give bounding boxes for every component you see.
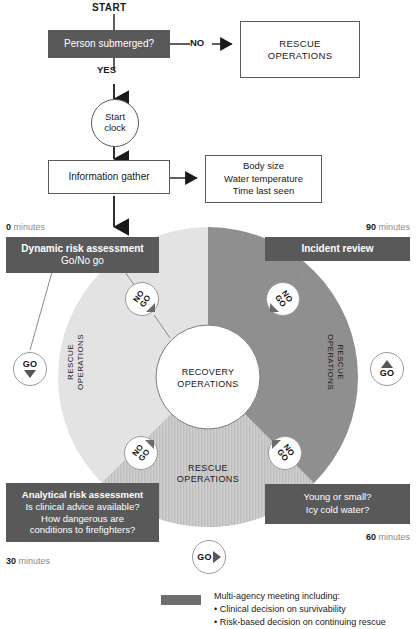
triangle-down-icon [24,370,36,378]
triangle-up-right-icon [145,440,154,449]
node-analytical-line1: Is clinical advice available? [25,501,139,513]
node-dynamic-risk-assessment-sub: Go/No go [61,255,104,267]
badge-go-bottom[interactable]: GO [192,540,226,574]
triangle-up-icon [381,360,393,368]
timeline-0-minutes: 0 minutes [6,222,45,232]
node-info-details-label: Body size Water temperature Time last se… [224,160,303,198]
badge-go-right-text: GO [380,369,394,378]
timeline-60-minutes: 60 minutes [366,532,410,542]
triangle-up-left-icon [272,440,281,449]
node-dynamic-risk-assessment-title: Dynamic risk assessment [21,243,143,255]
node-incident-review-label: Incident review [301,243,373,255]
badge-no-go-top-left[interactable]: NO GO [125,282,159,316]
edge-label-no: NO [190,37,204,48]
node-information-gather-label: Information gather [68,171,149,183]
legend-heading: Multi-agency meeting including: [214,590,340,603]
badge-no-go-bottom-left[interactable]: NO GO [124,436,158,470]
timeline-90-minutes: 90 minutes [366,222,410,232]
node-start-clock[interactable]: Start clock [91,99,139,147]
node-dynamic-risk-assessment[interactable]: Dynamic risk assessment Go/No go [6,237,159,273]
timeline-90-value: 90 [366,222,376,232]
node-young-or-small[interactable]: Young or small? Icy cold water? [265,484,410,524]
timeline-90-unit: minutes [378,222,410,232]
badge-no-go-top-right[interactable]: NO GO [266,282,300,316]
start-label: START [92,2,127,13]
node-analytical-risk-assessment-title: Analytical risk assessment [22,489,143,501]
node-young-or-small-line2: Icy cold water? [306,504,369,517]
timeline-60-unit: minutes [378,532,410,542]
arc-label-rescue-operations-right: RESCUE OPERATIONS [325,332,345,392]
badge-go-left[interactable]: GO [13,352,47,386]
node-rescue-operations-top-label: RESCUE OPERATIONS [268,38,333,60]
timeline-30-minutes: 30 minutes [6,556,50,566]
badge-go-right[interactable]: GO [370,352,404,386]
node-person-submerged[interactable]: Person submerged? [48,30,170,58]
line-dra-to-go-left [30,272,52,350]
legend-bullet-1: • Clinical decision on survivability [214,603,346,616]
legend-bullet-2: • Risk-based decision on continuing resc… [214,616,386,629]
badge-go-bottom-text: GO [197,553,211,562]
edge-label-yes: YES [97,64,116,75]
recovery-operations-label: RECOVERY OPERATIONS [160,367,256,390]
timeline-60-value: 60 [366,532,376,542]
node-analytical-line2: How dangerous are [41,513,124,525]
arc-label-rescue-operations-left: RESCUE OPERATIONS [66,332,86,392]
node-information-gather[interactable]: Information gather [48,160,170,194]
timeline-30-unit: minutes [19,556,51,566]
timeline-30-value: 30 [6,556,16,566]
legend-swatch [161,595,201,605]
node-person-submerged-label: Person submerged? [64,38,154,50]
node-rescue-operations-top[interactable]: RESCUE OPERATIONS [240,21,360,78]
triangle-right-icon [213,551,221,563]
triangle-down-right-icon [146,303,155,312]
timeline-0-unit: minutes [14,222,46,232]
node-analytical-line3: conditions to firefighters? [30,524,136,536]
triangle-down-left-icon [270,303,279,312]
node-young-or-small-line1: Young or small? [304,491,372,504]
badge-go-left-text: GO [23,360,37,369]
badge-no-go-bottom-right[interactable]: NO GO [268,436,302,470]
node-start-clock-label: Start clock [104,112,126,134]
node-info-details[interactable]: Body size Water temperature Time last se… [205,155,322,203]
node-analytical-risk-assessment[interactable]: Analytical risk assessment Is clinical a… [6,483,159,542]
node-incident-review[interactable]: Incident review [265,237,410,261]
arc-label-rescue-operations-bottom: RESCUE OPERATIONS [171,463,245,486]
timeline-0-value: 0 [6,222,11,232]
